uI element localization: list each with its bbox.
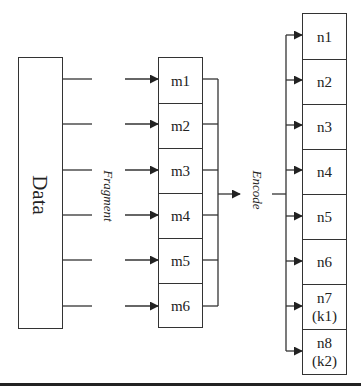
encoded-label-n3: n3 [317, 118, 332, 136]
encoded-label-n1: n1 [317, 28, 332, 46]
fragment-arrows [125, 79, 158, 306]
fragment-label-m3: m3 [171, 162, 190, 180]
fragment-label-m4: m4 [171, 207, 190, 225]
encoded-cell: n5 [303, 194, 346, 239]
fragment-label-m1: m1 [171, 72, 190, 90]
fragment-cell: m3 [159, 148, 202, 193]
fragment-bracket [202, 79, 218, 306]
encoded-cell: n2 [303, 59, 346, 104]
bottom-rule [0, 383, 361, 386]
data-label: Data [27, 165, 53, 225]
encoded-cell: n7 (k1) [303, 284, 346, 329]
fragment-stack: m1 m2 m3 m4 m5 m6 [158, 57, 203, 328]
fragment-label-m5: m5 [171, 252, 190, 270]
encoded-label-n2: n2 [317, 73, 332, 91]
encoded-cell: n8 (k2) [303, 329, 346, 374]
encoded-label-n8: n8 (k2) [312, 334, 337, 370]
encode-label: Encode [249, 160, 265, 220]
fragment-cell: m1 [159, 58, 202, 103]
fragment-cell: m2 [159, 103, 202, 148]
encoded-label-n7: n7 (k1) [312, 289, 337, 325]
encoded-arrows [286, 35, 302, 351]
fragment-cell: m5 [159, 238, 202, 283]
fragment-cell: m6 [159, 283, 202, 327]
encoded-cell: n6 [303, 239, 346, 284]
encoded-stack: n1 n2 n3 n4 n5 n6 n7 (k1) n8 (k2) [302, 13, 347, 375]
encoded-cell: n3 [303, 104, 346, 149]
fragment-cell: m4 [159, 193, 202, 238]
encoded-label-n5: n5 [317, 208, 332, 226]
encoded-label-n4: n4 [317, 163, 332, 181]
fragment-label-m6: m6 [171, 297, 190, 315]
data-stubs [62, 79, 92, 306]
fragment-label: Fragment [100, 161, 116, 231]
encoded-cell: n4 [303, 149, 346, 194]
encoded-cell: n1 [303, 14, 346, 59]
fragment-label-m2: m2 [171, 117, 190, 135]
encoded-label-n6: n6 [317, 253, 332, 271]
